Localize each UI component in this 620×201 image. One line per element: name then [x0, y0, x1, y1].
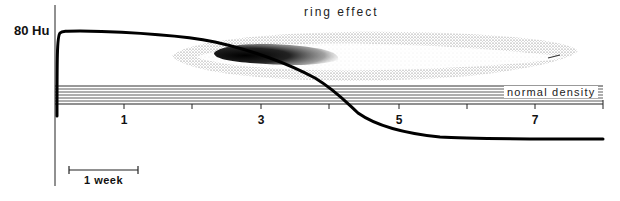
ring-effect-region [172, 32, 578, 81]
x-tick-label-3: 3 [258, 113, 265, 127]
y-axis-label: 80 Hu [14, 23, 49, 38]
scale-bar [69, 166, 138, 174]
x-tick-label-1: 1 [121, 113, 128, 127]
scale-bar-label: 1 week [84, 174, 123, 186]
ring-effect-label: ring effect [304, 5, 378, 19]
diagram-canvas [0, 0, 620, 201]
x-tick-label-5: 5 [396, 113, 403, 127]
x-tick-label-7: 7 [532, 113, 539, 127]
normal-density-label: normal density [504, 86, 598, 98]
